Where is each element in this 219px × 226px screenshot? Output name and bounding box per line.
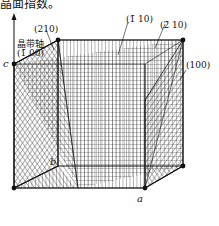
crystal-zone-diagram bbox=[0, 0, 219, 226]
axis-label-a: a bbox=[137, 193, 143, 204]
axis-label-b: b bbox=[50, 156, 56, 167]
label-plane-100: (100) bbox=[186, 60, 210, 70]
axis-label-c: c bbox=[3, 58, 9, 69]
label-plane-bar100: (1̄ 00) bbox=[17, 48, 44, 58]
label-plane-bar110: (1̄ 10) bbox=[126, 14, 153, 24]
label-plane-bar210: (2̄ 10) bbox=[160, 20, 187, 30]
arrow-up-icon bbox=[12, 13, 17, 20]
label-plane-210: (210) bbox=[34, 24, 58, 34]
